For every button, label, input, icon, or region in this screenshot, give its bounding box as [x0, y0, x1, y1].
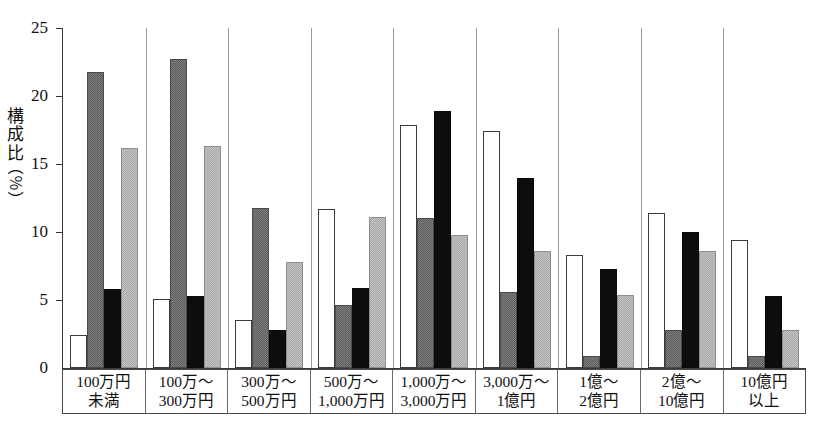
bar — [369, 217, 386, 368]
bar — [286, 262, 303, 368]
group-separator — [641, 28, 642, 368]
bar — [400, 125, 417, 368]
bar — [500, 292, 517, 368]
bar — [87, 72, 104, 368]
bar — [170, 59, 187, 368]
x-axis-category-label-line: 10億円 — [658, 392, 706, 411]
bar — [566, 255, 583, 368]
bar — [121, 148, 138, 368]
group-separator — [723, 28, 724, 368]
y-tick-mark-15 — [56, 164, 63, 165]
x-axis-category-label-line: 以上 — [748, 392, 780, 411]
x-axis-category-label: 10億円以上 — [724, 370, 806, 413]
x-axis-category-label-line: 3,000万～ — [483, 373, 550, 392]
bar — [70, 335, 87, 368]
bar — [451, 235, 468, 368]
bar — [335, 305, 352, 368]
bar-group-bars — [235, 28, 303, 368]
x-axis-category-label-line: 1億～ — [579, 373, 619, 392]
bar-group — [63, 28, 146, 368]
bar-group-bars — [731, 28, 799, 368]
y-tick-mark-5 — [56, 300, 63, 301]
bar — [583, 356, 600, 368]
bar — [648, 213, 665, 368]
bar — [235, 320, 252, 368]
bar — [417, 218, 434, 368]
bar — [517, 178, 534, 368]
x-axis-category-label: 500万～1,000万円 — [311, 370, 394, 413]
bar-group — [723, 28, 806, 368]
bar-group-bars — [153, 28, 221, 368]
bar — [352, 288, 369, 368]
y-tick-label-20: 20 — [18, 87, 48, 104]
y-tick-mark-10 — [56, 232, 63, 233]
bar — [187, 296, 204, 368]
y-tick-label-0: 0 — [18, 359, 48, 376]
bar — [748, 356, 765, 368]
y-axis-label-char-0: 構 — [2, 108, 28, 126]
y-tick-label-5: 5 — [18, 291, 48, 308]
x-axis-category-label: 1億～2億円 — [558, 370, 641, 413]
x-axis-category-label-line: 300万～ — [241, 373, 296, 392]
bar — [765, 296, 782, 368]
x-axis-category-label-line: 500万～ — [324, 373, 379, 392]
x-axis-category-label: 2億～10億円 — [641, 370, 724, 413]
x-axis-category-label: 100万円未満 — [63, 370, 146, 413]
group-separator — [393, 28, 394, 368]
group-separator — [311, 28, 312, 368]
bar — [153, 299, 170, 368]
bar-group-bars — [483, 28, 551, 368]
bar — [600, 269, 617, 368]
bar — [104, 289, 121, 368]
x-axis-category-label-line: 2億円 — [579, 392, 619, 411]
y-tick-mark-20 — [56, 96, 63, 97]
y-axis-label-char-1: 成 — [2, 126, 28, 144]
bar — [483, 131, 500, 368]
x-axis-category-label-line: 100万円 — [76, 373, 131, 392]
x-axis-category-label: 100万～300万円 — [146, 370, 229, 413]
bar-chart: 構 成 比 （％） 0510152025 100万円未満100万～300万円30… — [0, 0, 814, 425]
bar — [318, 209, 335, 368]
x-axis-category-label-line: 3,000万円 — [401, 392, 468, 411]
x-axis-category-label: 1,000万～3,000万円 — [393, 370, 476, 413]
bar-group-bars — [648, 28, 716, 368]
bar-group — [311, 28, 394, 368]
x-axis-category-label-line: 1,000万円 — [318, 392, 385, 411]
bar-group-bars — [70, 28, 138, 368]
bar-group — [476, 28, 559, 368]
bar-group — [146, 28, 229, 368]
bar-group — [393, 28, 476, 368]
bar-group — [558, 28, 641, 368]
x-axis-category-label-line: 100万～ — [159, 373, 214, 392]
y-tick-mark-25 — [56, 28, 63, 29]
bar — [665, 330, 682, 368]
bar-group — [641, 28, 724, 368]
y-tick-label-25: 25 — [18, 19, 48, 36]
plot-area — [63, 28, 806, 368]
x-axis-category-label-line: 500万円 — [241, 392, 296, 411]
x-axis-category-label-line: 2億～ — [662, 373, 702, 392]
x-axis-category-label-line: 1億円 — [497, 392, 537, 411]
x-axis-category-label: 300万～500万円 — [228, 370, 311, 413]
x-axis-category-label-line: 300万円 — [159, 392, 214, 411]
bar — [731, 240, 748, 368]
x-axis-category-label-line: 10億円 — [741, 373, 789, 392]
bar — [617, 295, 634, 368]
bar — [252, 208, 269, 368]
bar — [534, 251, 551, 368]
bar-group — [228, 28, 311, 368]
x-axis-category-label-line: 1,000万～ — [401, 373, 468, 392]
bar-group-bars — [318, 28, 386, 368]
bar — [204, 146, 221, 368]
x-axis-category-label: 3,000万～1億円 — [476, 370, 559, 413]
bar — [782, 330, 799, 368]
bar — [682, 232, 699, 368]
group-separator — [476, 28, 477, 368]
group-separator — [146, 28, 147, 368]
x-axis-category-table: 100万円未満100万～300万円300万～500万円500万～1,000万円1… — [62, 369, 806, 414]
y-tick-label-10: 10 — [18, 223, 48, 240]
bar-group-bars — [400, 28, 468, 368]
y-tick-label-15: 15 — [18, 155, 48, 172]
bar-group-bars — [566, 28, 634, 368]
bar — [269, 330, 286, 368]
